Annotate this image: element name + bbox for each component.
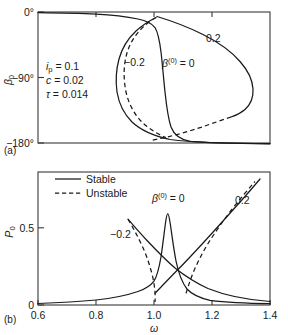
panel-b-xtick-label-10: 1.0 [147, 309, 162, 321]
panel-a: 0° −90° −180° β0 ip = 0.1 c = 0.02 τ = 0… [2, 6, 270, 156]
panel-b-label: (b) [4, 314, 16, 325]
panel-a-annot-beta-rest: = 0 [177, 57, 195, 69]
panel-b-y-axis-label: P0 [3, 226, 17, 237]
panel-b-annot-beta-base: β [151, 192, 158, 204]
svg-text:τ = 0.014: τ = 0.014 [46, 88, 88, 100]
curve-a-pos02-unstable [151, 117, 231, 141]
panel-a-y-axis-label: β0 [2, 75, 16, 86]
svg-text:P0: P0 [3, 226, 17, 237]
panel-b-ylabel-base: P [3, 231, 15, 238]
panel-b-annotation-beta0: β(0) = 0 [151, 191, 185, 204]
panel-b-annotation-neg02: −0.2 [110, 228, 131, 240]
panel-b-xtick-label-12: 1.2 [205, 309, 220, 321]
panel-b-x-axis-label: ω [150, 322, 158, 334]
panel-a-annot-beta-sup: (0) [168, 56, 177, 65]
figure-container: 0° −90° −180° β0 ip = 0.1 c = 0.02 τ = 0… [0, 0, 288, 335]
param-c-value: = 0.02 [54, 74, 84, 86]
curve-a-neg02-stable [116, 18, 270, 144]
panel-a-annotation-beta0: β(0) = 0 [161, 56, 195, 69]
panel-a-parameter-list: ip = 0.1 c = 0.02 τ = 0.014 [46, 60, 88, 100]
panel-b-annot-beta-rest: = 0 [167, 192, 185, 204]
panel-b-xtick-label-06: 0.6 [31, 309, 46, 321]
panel-a-annot-beta-base: β [161, 57, 168, 69]
panel-b-xtick-label-08: 0.8 [89, 309, 104, 321]
panel-b-xtick-label-14: 1.4 [263, 309, 278, 321]
svg-text:β0: β0 [2, 75, 16, 86]
panel-b-annotation-pos02: 0.2 [235, 194, 250, 206]
panel-b-legend: Stable Unstable [55, 173, 128, 199]
legend-label-unstable: Unstable [86, 187, 128, 199]
panel-b-annot-beta-sup: (0) [158, 191, 167, 200]
param-ip-value: = 0.1 [56, 60, 80, 72]
panel-a-ylabel-base: β [2, 79, 14, 86]
legend-label-stable: Stable [86, 173, 116, 185]
panel-b-ytick-label-05: 0.5 [19, 222, 34, 234]
panel-a-annotation-pos02: 0.2 [206, 32, 221, 44]
panel-a-ylabel-sub: 0 [7, 75, 16, 79]
svg-text:c = 0.02: c = 0.02 [46, 74, 84, 86]
panel-a-label: (a) [4, 145, 16, 156]
panel-b: 0 0.5 0.6 0.8 1.0 1.2 1.4 ω P0 Stable Un… [3, 172, 277, 334]
panel-a-ytick-label-0: 0° [24, 6, 34, 18]
figure-svg: 0° −90° −180° β0 ip = 0.1 c = 0.02 τ = 0… [0, 0, 288, 335]
curve-b-beta0-peak [38, 214, 270, 304]
panel-a-annotation-neg02: −0.2 [124, 56, 145, 68]
curve-b-neg02-stable [128, 219, 270, 301]
svg-text:ip = 0.1: ip = 0.1 [46, 60, 79, 74]
param-tau-value: = 0.014 [53, 88, 88, 100]
panel-b-ylabel-sub: 0 [8, 226, 17, 230]
